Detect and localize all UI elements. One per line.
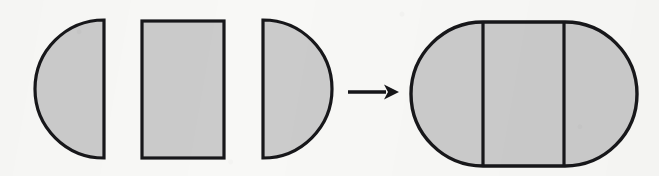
arrow-right-icon	[348, 85, 399, 100]
result-stadium-shape	[411, 22, 637, 166]
left-half-disc-shape	[35, 20, 104, 158]
figure-canvas: Three shaded plane pieces combining into…	[0, 0, 659, 176]
shape-composition-figure: Three shaded plane pieces combining into…	[0, 0, 659, 176]
right-half-disc-shape	[263, 20, 332, 158]
middle-rectangle-shape	[142, 21, 224, 158]
